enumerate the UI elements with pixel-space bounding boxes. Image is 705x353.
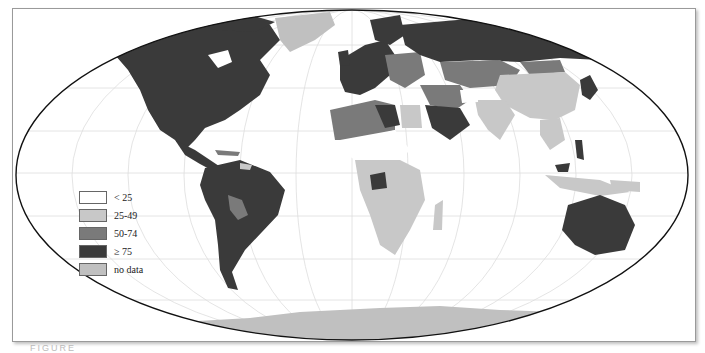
australia xyxy=(562,195,635,255)
legend: < 25 25-49 50-74 ≥ 75 no data xyxy=(79,188,143,278)
legend-swatch-no-data xyxy=(79,263,107,276)
legend-label: 25-49 xyxy=(114,210,137,221)
philippines xyxy=(575,140,584,160)
legend-swatch-lt25 xyxy=(79,191,107,204)
central-africa xyxy=(355,160,425,255)
east-africa xyxy=(415,150,442,172)
legend-swatch-gte75 xyxy=(79,245,107,258)
legend-swatch-50-74 xyxy=(79,227,107,240)
figure-caption: FIGURE xyxy=(30,343,76,353)
caribbean xyxy=(215,150,240,156)
egypt xyxy=(400,105,422,128)
legend-swatch-25-49 xyxy=(79,209,107,222)
korea-japan xyxy=(580,75,598,100)
russia xyxy=(400,15,650,62)
legend-item-lt25: < 25 xyxy=(79,188,143,206)
legend-item-25-49: 25-49 xyxy=(79,206,143,224)
greenland xyxy=(275,12,335,52)
uk xyxy=(338,50,350,66)
malaysia xyxy=(555,163,570,172)
afghanistan xyxy=(460,90,478,103)
india xyxy=(475,100,515,140)
guianas xyxy=(240,163,252,170)
legend-label: 50-74 xyxy=(114,228,137,239)
legend-item-gte75: ≥ 75 xyxy=(79,242,143,260)
legend-item-50-74: 50-74 xyxy=(79,224,143,242)
legend-item-no-data: no data xyxy=(79,260,143,278)
madagascar xyxy=(433,200,443,230)
europe-west xyxy=(340,40,395,95)
se-asia xyxy=(540,118,565,150)
arabia xyxy=(425,105,470,140)
south-america xyxy=(200,160,285,290)
legend-label: no data xyxy=(114,264,143,275)
gabon xyxy=(370,172,387,190)
legend-label: < 25 xyxy=(114,192,132,203)
legend-label: ≥ 75 xyxy=(114,246,132,257)
eastern-europe xyxy=(385,52,425,88)
scandinavia xyxy=(370,15,405,45)
new-zealand xyxy=(643,248,662,272)
antarctica xyxy=(100,306,660,350)
